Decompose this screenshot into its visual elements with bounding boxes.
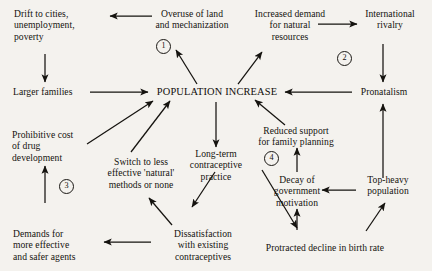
edge-protracted-to-topheavy — [366, 203, 385, 231]
edge-center-to-demand — [238, 52, 262, 84]
loop-marker-4: 4 — [264, 151, 279, 166]
node-rivalry: International rivalry — [354, 8, 426, 31]
node-population-increase: POPULATION INCREASE — [148, 86, 286, 98]
edge-center-to-overuse — [176, 50, 197, 84]
loop-marker-2: 2 — [337, 51, 352, 66]
node-reduced-support: Reduced support for family planning — [241, 125, 351, 148]
node-pronatalism: Pronatalism — [352, 86, 416, 97]
node-protracted-decline: Protracted decline in birth rate — [237, 242, 413, 253]
node-drift: Drift to cities, unemployment, poverty — [14, 8, 110, 42]
node-topheavy-population: Top-heavy population — [352, 174, 424, 197]
loop-marker-3: 3 — [59, 179, 74, 194]
node-decay-motivation: Decay of government motivation — [261, 174, 333, 208]
node-demands-agents: Demands for more effective and safer age… — [13, 228, 115, 262]
edge-dissatis-to-switch — [149, 198, 172, 225]
loop-marker-1: 1 — [156, 39, 171, 54]
node-demand: Increased demand for natural resources — [243, 8, 337, 42]
edge-switch-to-center — [131, 101, 170, 152]
node-longterm-practice: Long-term contraceptive practice — [174, 148, 258, 182]
population-increase-diagram: Drift to cities, unemployment, poverty O… — [0, 0, 432, 271]
edge-reduced-to-center — [255, 100, 285, 125]
node-overuse: Overuse of land and mechanization — [140, 8, 244, 31]
node-larger-families: Larger families — [13, 86, 93, 97]
